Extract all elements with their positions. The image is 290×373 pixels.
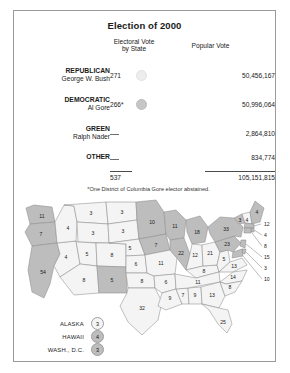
state-label-IA: 7 (155, 242, 158, 248)
state-label-LA: 9 (169, 295, 172, 301)
table-row: REPUBLICAN George W. Bush 271 50,456,167 (14, 61, 275, 90)
state-label-WI: 11 (172, 223, 177, 229)
swatch-cell-other (136, 147, 158, 167)
leader-line-MD (243, 256, 262, 279)
popular-votes-republican: 50,456,167 (158, 61, 275, 90)
no-electoral-votes-dash-icon (110, 134, 119, 135)
header-spacer (14, 38, 110, 61)
state-label-CO: 8 (111, 252, 114, 258)
legend-row-dc: WASH., D.C. 3 (14, 343, 275, 356)
leader-line-CT (252, 233, 262, 246)
state-label-TX: 32 (139, 305, 145, 311)
state-label-PA: 23 (224, 241, 230, 247)
party-cell-democratic: DEMOCRATIC Al Gore (14, 90, 110, 119)
table-total-row: 537 105,151,815 (14, 168, 275, 182)
state-label-AL: 9 (194, 292, 197, 298)
table-row: OTHER 834,774 (14, 147, 275, 167)
state-label-OR: 7 (40, 231, 43, 237)
state-label-GA: 13 (209, 292, 215, 298)
state-label-IL: 22 (178, 250, 184, 256)
state-label-CA: 54 (40, 269, 46, 275)
total-electoral: 537 (110, 168, 136, 182)
state-label-AR: 6 (165, 279, 168, 285)
total-popular-value: 105,151,815 (238, 174, 275, 181)
popular-votes-green: 2,864,810 (158, 119, 275, 148)
party-label: GREEN (14, 125, 110, 133)
callout-label-CT: 8 (264, 243, 267, 249)
state-label-TN: 11 (195, 279, 200, 285)
figure-frame: Election of 2000 Electoral Vote by State… (13, 10, 276, 362)
total-rule-electoral (110, 171, 132, 173)
state-label-VA: 13 (231, 263, 237, 269)
results-table: Electoral Vote by State Popular Vote REP… (14, 38, 275, 181)
electoral-votes-other (110, 147, 136, 167)
state-label-MI: 18 (194, 229, 200, 235)
legend-row-alaska: ALASKA 3 (14, 317, 275, 330)
state-label-IN: 12 (192, 252, 198, 258)
state-NJ[interactable] (240, 240, 246, 248)
state-label-OK: 8 (141, 278, 144, 284)
republican-color-swatch-icon (136, 70, 147, 81)
state-MA[interactable] (244, 223, 254, 228)
party-cell-other: OTHER (14, 147, 110, 167)
no-electoral-votes-dash-icon (110, 159, 119, 160)
header-popular: Popular Vote (158, 38, 275, 61)
state-ID[interactable] (55, 205, 77, 243)
table-row: DEMOCRATIC Al Gore 266* 50,996,064 (14, 90, 275, 119)
state-label-KY: 8 (203, 268, 206, 274)
democratic-color-swatch-icon (136, 99, 147, 110)
state-label-NE: 5 (129, 245, 132, 251)
candidate-label: Al Gore (14, 104, 110, 112)
popular-votes-democratic: 50,996,064 (158, 90, 275, 119)
state-label-NY: 33 (223, 226, 229, 232)
electoral-votes-democratic: 266* (110, 90, 136, 119)
callout-label-NJ: 15 (264, 254, 270, 260)
offshore-legend: ALASKA 3 HAWAII 4 WASH., D.C. 3 (14, 317, 275, 356)
swatch-cell-republican (136, 61, 158, 90)
callout-label-DE: 3 (264, 265, 267, 271)
table-row: GREEN Ralph Nader 2,864,810 (14, 119, 275, 148)
state-label-SD: 3 (122, 228, 125, 234)
party-cell-green: GREEN Ralph Nader (14, 119, 110, 148)
legend-votes-alaska: 3 (91, 317, 104, 330)
electoral-votes-republican: 271 (110, 61, 136, 90)
party-label: OTHER (14, 153, 110, 161)
state-label-ME: 4 (256, 209, 259, 215)
state-label-NH: 4 (246, 217, 249, 223)
state-RI[interactable] (251, 228, 254, 232)
leader-line-MA (254, 224, 261, 226)
leader-line-NJ (246, 244, 262, 257)
state-CT[interactable] (244, 228, 251, 233)
table-header-row: Electoral Vote by State Popular Vote (14, 38, 275, 61)
swatch-cell-green (136, 119, 158, 148)
legend-label-dc: WASH., D.C. (26, 347, 84, 353)
state-label-VT: 3 (239, 217, 242, 223)
footnote: *One District of Columbia Gore elector a… (14, 186, 275, 192)
header-electoral: Electoral Vote by State (110, 38, 158, 61)
party-label: REPUBLICAN (14, 67, 110, 75)
party-label: DEMOCRATIC (14, 96, 110, 104)
state-label-AZ: 8 (83, 277, 86, 283)
state-label-SC: 8 (229, 284, 232, 290)
state-label-NV: 4 (65, 254, 68, 260)
state-label-WY: 3 (92, 230, 95, 236)
callout-label-MA: 12 (264, 221, 270, 227)
total-electoral-value: 537 (110, 174, 121, 181)
state-label-UT: 5 (86, 251, 89, 257)
electoral-votes-green (110, 119, 136, 148)
legend-label-alaska: ALASKA (26, 321, 84, 327)
state-label-MS: 7 (182, 292, 185, 298)
popular-votes-other: 834,774 (158, 147, 275, 167)
state-label-ND: 3 (121, 209, 124, 215)
state-label-KS: 6 (135, 261, 138, 267)
legend-label-hawaii: HAWAII (26, 334, 84, 340)
total-rule-popular (205, 171, 275, 173)
page-title: Election of 2000 (14, 20, 275, 31)
state-label-MO: 11 (158, 260, 163, 266)
total-spacer (14, 168, 110, 182)
state-label-WV: 5 (223, 256, 226, 262)
total-popular: 105,151,815 (158, 168, 275, 182)
legend-row-hawaii: HAWAII 4 (14, 330, 275, 343)
candidate-label: Ralph Nader (14, 133, 110, 141)
state-label-NM: 5 (111, 277, 114, 283)
